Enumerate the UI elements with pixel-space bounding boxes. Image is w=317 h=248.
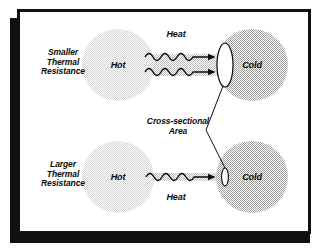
hot-label-top: Hot [94, 60, 142, 70]
heat-label-bottom: Heat [148, 192, 204, 202]
side-label-smaller-resistance: Smaller Thermal Resistance [24, 48, 102, 77]
hot-label-bottom: Hot [94, 172, 142, 182]
side-label-larger-resistance: Larger Thermal Resistance [24, 160, 102, 189]
cold-label-top: Cold [228, 60, 276, 70]
diagram-root: Smaller Thermal Resistance Hot Cold Heat… [0, 0, 317, 248]
cold-label-bottom: Cold [228, 172, 276, 182]
diagram-frame: Smaller Thermal Resistance Hot Cold Heat… [17, 9, 311, 234]
heat-label-top: Heat [148, 29, 204, 39]
cross-sectional-area-label: Cross-sectional Area [130, 117, 226, 137]
